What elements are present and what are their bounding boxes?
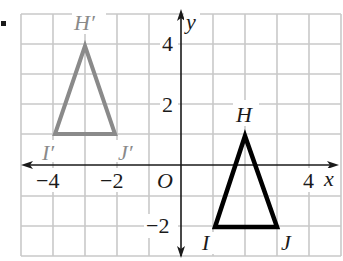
x-tick-label-4: 4 (303, 168, 314, 193)
x-tick-label-neg2: −2 (100, 168, 123, 193)
vertex-label-J-prime: J′ (118, 140, 134, 165)
y-axis-label: y (184, 9, 196, 34)
x-tick-label-neg4: −4 (36, 168, 59, 193)
vertex-label-H-prime: H′ (73, 10, 96, 35)
x-axis-label: x (323, 166, 334, 191)
y-tick-label-2: 2 (162, 92, 173, 117)
vertex-label-H: H (235, 102, 253, 127)
vertex-label-J: J (281, 230, 292, 255)
vertex-label-I-prime: I′ (41, 140, 55, 165)
triangle-preimage-HIJ (215, 136, 277, 227)
y-tick-label-4: 4 (162, 31, 173, 56)
y-tick-label-neg2: −2 (146, 213, 169, 238)
bullet-marker (1, 21, 6, 26)
coordinate-plane-figure: y x O −4 −2 4 4 2 −2 H′ I′ J′ H I J (0, 0, 343, 261)
origin-label: O (157, 168, 173, 193)
